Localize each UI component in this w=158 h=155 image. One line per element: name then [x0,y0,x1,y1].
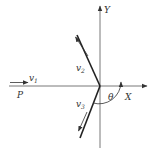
v1-label: v1 [29,73,38,84]
v2-arrow [76,37,89,56]
refracted-line [80,86,100,138]
theta-label: θ [108,92,114,102]
velocity-diagram: Y X P v1 v2 v3 θ [0,0,158,155]
v2-label: v2 [76,63,85,74]
y-axis-label: Y [104,5,111,15]
reflected-line [77,35,100,86]
x-axis-label: X [124,92,132,102]
v3-label: v3 [76,99,85,110]
point-p-label: P [16,90,24,100]
diagram-canvas: Y X P v1 v2 v3 θ [0,0,158,155]
